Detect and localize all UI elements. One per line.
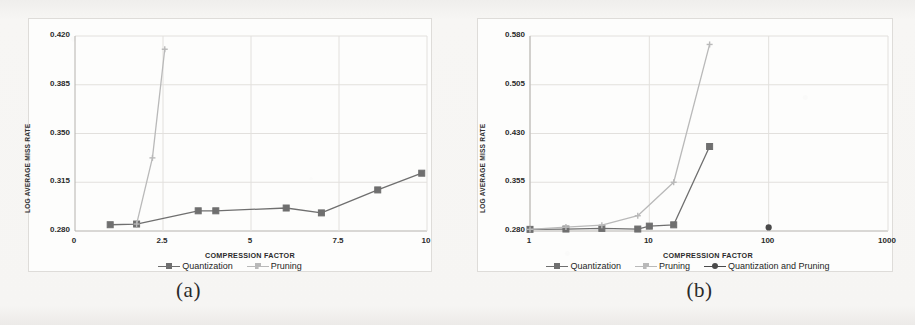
chart-b-legend-square-marker-icon	[546, 262, 568, 271]
chart-b-y-axis-title: LOG AVERAGE MISS RATE	[479, 124, 486, 213]
subfigure-a: LOG AVERAGE MISS RATE COMPRESSION FACTOR…	[0, 0, 457, 325]
chart-a-legend-plus-marker-icon	[247, 262, 269, 271]
chart-a-plot-frame	[28, 18, 432, 272]
chart-b-x-tick-0: 1	[509, 236, 549, 245]
chart-a-x-tick-3: 7.5	[318, 236, 358, 245]
chart-b-legend-item-1[interactable]: Pruning	[635, 261, 690, 271]
chart-b-x-tick-3: 1000	[867, 236, 907, 245]
chart-a-x-tick-4: 10	[406, 236, 446, 245]
chart-b-y-tick-3: 0.505	[487, 79, 525, 88]
chart-b-legend-circle-marker-icon	[704, 262, 726, 271]
chart-b-legend-label-1: Pruning	[659, 261, 690, 271]
subfigure-b-caption: (b)	[471, 278, 915, 303]
chart-b-canvas	[478, 19, 894, 273]
chart-a-y-tick-3: 0.385	[32, 79, 70, 88]
chart-a-x-axis-title: COMPRESSION FACTOR	[160, 251, 340, 260]
chart-b-legend-item-0[interactable]: Quantization	[546, 261, 621, 271]
figure-row: LOG AVERAGE MISS RATE COMPRESSION FACTOR…	[0, 0, 915, 325]
chart-a-legend-label-1: Pruning	[271, 261, 302, 271]
chart-b-legend-item-2[interactable]: Quantization and Pruning	[704, 261, 830, 271]
chart-a-y-tick-2: 0.350	[32, 128, 70, 137]
figure-page: LOG AVERAGE MISS RATE COMPRESSION FACTOR…	[0, 0, 915, 325]
chart-b-legend-label-2: Quantization and Pruning	[728, 261, 830, 271]
chart-b-x-axis-title: COMPRESSION FACTOR	[618, 251, 798, 260]
subfigure-a-caption: (a)	[0, 278, 417, 303]
chart-a-x-tick-1: 2.5	[142, 236, 182, 245]
chart-a-y-tick-4: 0.420	[32, 30, 70, 39]
chart-a-legend-item-0[interactable]: Quantization	[158, 261, 233, 271]
chart-b-plot-frame	[477, 18, 893, 272]
chart-a-y-tick-0: 0.280	[32, 225, 70, 234]
chart-b-y-tick-1: 0.355	[487, 176, 525, 185]
chart-a-legend: QuantizationPruning	[28, 261, 432, 271]
chart-b-x-tick-2: 100	[748, 236, 788, 245]
subfigure-b: LOG AVERAGE MISS RATE COMPRESSION FACTOR…	[457, 0, 914, 325]
chart-a-legend-square-marker-icon	[158, 262, 180, 271]
chart-b-y-tick-2: 0.430	[487, 128, 525, 137]
chart-b-legend-label-0: Quantization	[570, 261, 621, 271]
chart-a-legend-label-0: Quantization	[182, 261, 233, 271]
chart-a-canvas	[29, 19, 433, 273]
chart-b-x-tick-1: 10	[628, 236, 668, 245]
chart-a-x-tick-2: 5	[230, 236, 270, 245]
chart-a-y-axis-title: LOG AVERAGE MISS RATE	[24, 124, 31, 213]
chart-a-y-tick-1: 0.315	[32, 176, 70, 185]
chart-b-y-tick-4: 0.580	[487, 30, 525, 39]
chart-a-x-tick-0: 0	[54, 236, 94, 245]
chart-a-legend-item-1[interactable]: Pruning	[247, 261, 302, 271]
chart-b-y-tick-0: 0.280	[487, 225, 525, 234]
chart-b-legend-plus-marker-icon	[635, 262, 657, 271]
chart-b-legend: QuantizationPruningQuantization and Prun…	[483, 261, 893, 271]
